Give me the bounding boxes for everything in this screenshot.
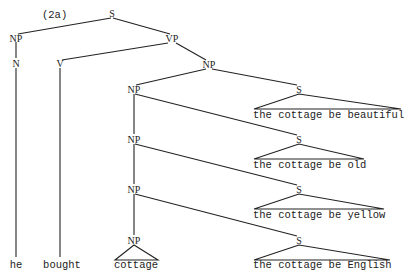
leaf-he: he: [10, 259, 23, 271]
example-label: (2a): [42, 9, 67, 21]
node-s-2: S: [296, 134, 302, 145]
syntax-tree-diagram: (2a) S NP VP N V NP NP NP NP NP S S S S …: [0, 0, 409, 277]
node-np-4: NP: [128, 235, 141, 246]
node-s-1: S: [296, 84, 302, 95]
triangle-s2: [254, 144, 364, 159]
node-np-1: NP: [128, 84, 141, 95]
node-n: N: [12, 58, 19, 69]
clause-english: the cottage be English: [253, 259, 392, 271]
clause-beautiful: the cottage be beautiful: [253, 109, 404, 121]
tree-edges: [16, 18, 297, 257]
node-np-2: NP: [128, 134, 141, 145]
triangle-s4: [254, 245, 390, 260]
node-np-3: NP: [128, 184, 141, 195]
node-object-np: NP: [203, 59, 216, 70]
node-s-3: S: [296, 184, 302, 195]
node-vp: VP: [166, 33, 179, 44]
node-root-s: S: [109, 8, 115, 19]
clause-old: the cottage be old: [253, 159, 366, 171]
node-s-4: S: [296, 235, 302, 246]
triangle-s1: [254, 94, 401, 109]
leaf-bought: bought: [43, 259, 81, 271]
leaf-cottage: cottage: [114, 259, 158, 271]
triangle-s3: [254, 194, 384, 209]
triangle-np4: [115, 245, 158, 260]
clause-yellow: the cottage be yellow: [253, 209, 386, 221]
node-v: V: [56, 58, 64, 69]
node-subject-np: NP: [10, 33, 23, 44]
